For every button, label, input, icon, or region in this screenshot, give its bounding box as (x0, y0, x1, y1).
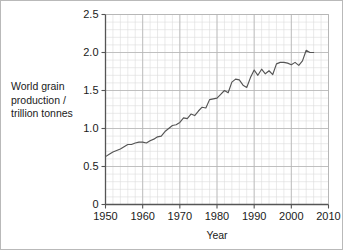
x-tick-label: 1980 (205, 210, 229, 222)
y-tick-label: 2.5 (83, 8, 98, 20)
line-chart: 00.51.01.52.02.5 19501960197019801990200… (1, 1, 343, 250)
chart-figure: 00.51.01.52.02.5 19501960197019801990200… (0, 0, 343, 250)
x-axis-tick-labels: 1950196019701980199020002010 (93, 210, 340, 222)
y-axis-label: World grain production / trillion tonnes (11, 80, 99, 121)
x-tick-label: 1960 (130, 210, 154, 222)
x-tick-label: 1970 (168, 210, 192, 222)
y-tick-label: 0 (92, 198, 98, 210)
y-axis-label-line-1: World grain (11, 80, 99, 94)
x-tick-label: 2000 (279, 210, 303, 222)
x-tick-label: 2010 (316, 210, 340, 222)
y-axis-label-line-3: trillion tonnes (11, 107, 99, 121)
y-tick-label: 1.0 (83, 122, 98, 134)
x-tick-label: 1950 (93, 210, 117, 222)
x-axis-label: Year (105, 229, 329, 241)
y-axis-label-line-2: production / (11, 94, 99, 108)
x-tick-label: 1990 (242, 210, 266, 222)
major-gridlines (106, 15, 329, 205)
y-tick-label: 0.5 (83, 160, 98, 172)
y-tick-label: 2.0 (83, 46, 98, 58)
axis-ticks (102, 15, 329, 209)
